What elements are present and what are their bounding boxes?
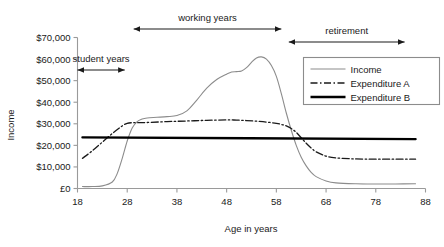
annotation-label: working years bbox=[177, 12, 237, 23]
annotation-label: student years bbox=[73, 53, 130, 64]
legend-label[interactable]: Expenditure A bbox=[351, 78, 411, 89]
x-tick-label: 88 bbox=[420, 196, 431, 207]
x-axis-tick-labels: 1828384858687888 bbox=[72, 189, 431, 207]
x-tick-label: 68 bbox=[321, 196, 332, 207]
y-tick-label: $40,000 bbox=[36, 97, 70, 108]
x-tick-label: 78 bbox=[370, 196, 381, 207]
y-tick-label: $60,000 bbox=[36, 54, 70, 65]
y-tick-label: £0 bbox=[60, 183, 71, 194]
y-axis-tick-labels: £0$10,000$20,000$30,000$40,000$50,000$60… bbox=[36, 32, 77, 194]
legend-label[interactable]: Income bbox=[351, 64, 382, 75]
x-tick-label: 48 bbox=[221, 196, 232, 207]
y-tick-label: $30,000 bbox=[36, 118, 70, 129]
y-tick-label: $10,000 bbox=[36, 161, 70, 172]
y-tick-label: $70,000 bbox=[36, 32, 70, 43]
legend-label[interactable]: Expenditure B bbox=[351, 92, 411, 103]
annotation-label: retirement bbox=[325, 25, 368, 36]
chart-legend[interactable]: IncomeExpenditure AExpenditure B bbox=[304, 58, 440, 105]
x-tick-label: 28 bbox=[122, 196, 133, 207]
x-axis-title: Age in years bbox=[225, 223, 278, 234]
x-tick-label: 58 bbox=[271, 196, 282, 207]
x-tick-label: 38 bbox=[172, 196, 183, 207]
y-axis-title: Income bbox=[5, 109, 16, 140]
x-tick-label: 18 bbox=[72, 196, 83, 207]
chart-canvas: £0$10,000$20,000$30,000$40,000$50,000$60… bbox=[0, 0, 444, 247]
income-expenditure-chart: £0$10,000$20,000$30,000$40,000$50,000$60… bbox=[0, 0, 444, 247]
y-tick-label: $20,000 bbox=[36, 140, 70, 151]
y-tick-label: $50,000 bbox=[36, 75, 70, 86]
series-line bbox=[82, 137, 415, 139]
